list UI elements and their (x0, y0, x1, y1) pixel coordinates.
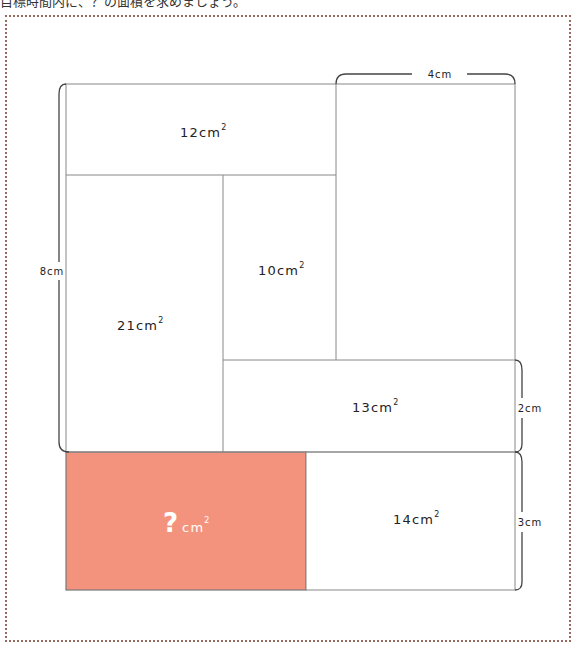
left-brace-bottom (59, 280, 69, 452)
dim-right-upper-label: 2cm (518, 403, 543, 414)
area-label-10: 10cm2 (258, 261, 305, 278)
right-brace-2-bottom (515, 418, 522, 452)
area-label-13: 13cm2 (352, 398, 399, 415)
right-brace-3-top (515, 452, 522, 512)
dim-left-label: 8cm (40, 266, 65, 277)
right-brace-2-top (515, 360, 522, 398)
top-brace-left (336, 74, 412, 84)
area-label-21: 21cm2 (117, 316, 164, 333)
area-diagram: 4cm 8cm 2cm 3cm 12cm2 21cm2 10cm2 13cm2 … (0, 0, 579, 648)
dim-right-lower-label: 3cm (518, 517, 543, 528)
area-label-12: 12cm2 (180, 123, 227, 140)
top-brace-right (467, 74, 515, 84)
right-brace-3-bottom (515, 532, 522, 590)
left-brace-top (59, 84, 66, 262)
dim-top-label: 4cm (428, 69, 453, 80)
area-label-14: 14cm2 (393, 510, 440, 527)
